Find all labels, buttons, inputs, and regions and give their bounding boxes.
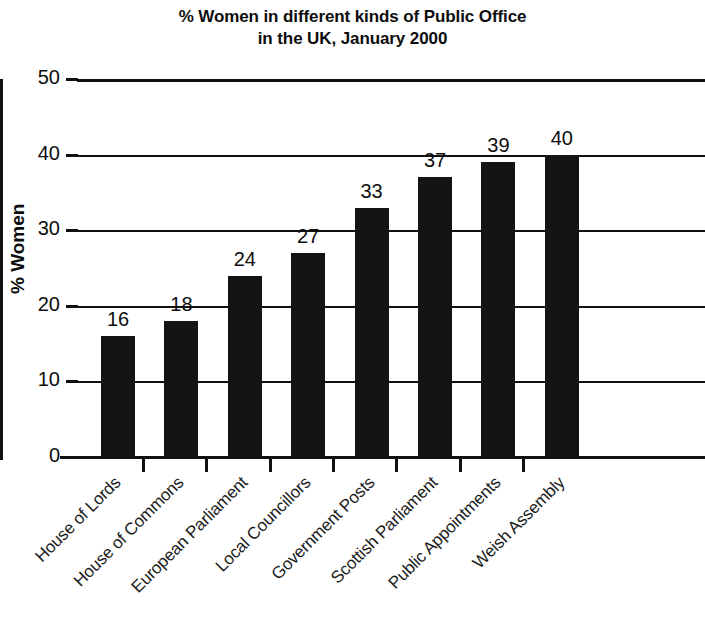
x-tick-mark (269, 459, 272, 472)
bar-value-label: 33 (346, 180, 398, 203)
bar[interactable] (481, 162, 515, 457)
x-tick-mark (522, 459, 525, 472)
bar-value-label: 40 (536, 127, 588, 150)
x-tick-mark (459, 459, 462, 472)
bar-value-label: 16 (92, 308, 144, 331)
bar-value-label: 39 (472, 134, 524, 157)
bar[interactable] (355, 208, 389, 457)
chart-title: % Women in different kinds of Public Off… (0, 6, 705, 51)
x-tick-mark (142, 459, 145, 472)
bar-value-label: 18 (155, 293, 207, 316)
bar-value-label: 37 (409, 149, 461, 172)
gridline-40 (77, 155, 705, 157)
bar-value-label: 24 (219, 248, 271, 271)
x-tick-mark (332, 459, 335, 472)
y-tick-label-50: 50 (16, 66, 60, 89)
chart-title-line-1: % Women in different kinds of Public Off… (0, 6, 705, 28)
x-tick-mark (395, 459, 398, 472)
bar[interactable] (291, 253, 325, 457)
gridline-50 (77, 79, 705, 82)
x-tick-mark (205, 459, 208, 472)
bar[interactable] (545, 155, 579, 457)
y-tick-label-40: 40 (16, 142, 60, 165)
plot-area (77, 79, 705, 457)
gridline-30 (77, 230, 705, 232)
y-tick-label-20: 20 (16, 293, 60, 316)
chart-title-line-2: in the UK, January 2000 (0, 28, 705, 50)
y-axis-line (0, 79, 3, 460)
y-tick-label-30: 30 (16, 217, 60, 240)
bar[interactable] (101, 336, 135, 457)
y-tick-label-10: 10 (16, 368, 60, 391)
bar-value-label: 27 (282, 225, 334, 248)
bar[interactable] (418, 177, 452, 457)
y-tick-label-0: 0 (16, 444, 60, 467)
bar[interactable] (164, 321, 198, 457)
bar[interactable] (228, 276, 262, 457)
